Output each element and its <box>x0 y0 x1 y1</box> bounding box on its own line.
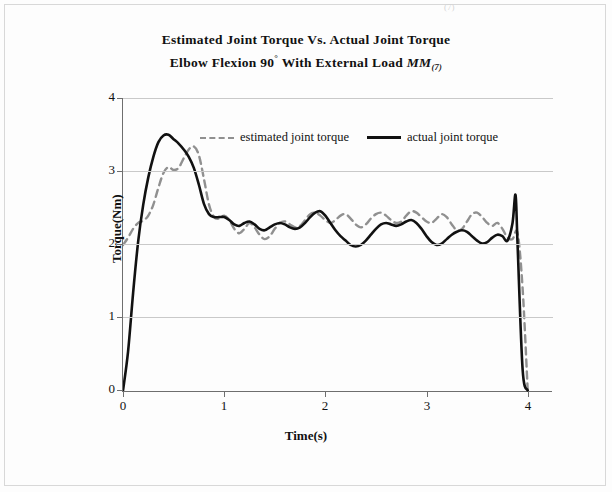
series-line-estimated-joint-torque <box>123 146 528 390</box>
scanned-page: (7) Estimated Joint Torque Vs. Actual Jo… <box>0 0 612 492</box>
y-tick-label-4: 4 <box>87 89 115 105</box>
legend-swatch-dashed-icon <box>200 137 234 139</box>
y-tickmark-3 <box>117 171 123 172</box>
y-tick-label-2: 2 <box>87 235 115 251</box>
x-tick-label-2: 2 <box>310 398 340 414</box>
y-tickmark-2 <box>117 244 123 245</box>
chart-legend: estimated joint torque actual joint torq… <box>200 130 508 145</box>
x-tickmark-2 <box>325 391 326 397</box>
y-tickmark-1 <box>117 317 123 318</box>
legend-swatch-solid-icon <box>367 136 401 139</box>
chart-area: Torque(Nm) 4 3 2 1 0 0 <box>0 0 612 492</box>
gridline-y4 <box>123 98 553 99</box>
x-tickmark-1 <box>224 391 225 397</box>
x-tick-label-0: 0 <box>108 398 138 414</box>
x-axis-label: Time(s) <box>0 428 612 444</box>
x-tickmark-4 <box>528 391 529 397</box>
legend-label-actual: actual joint torque <box>407 130 498 145</box>
x-tick-label-3: 3 <box>412 398 442 414</box>
gridline-y3 <box>123 171 553 172</box>
legend-entry-actual: actual joint torque <box>367 130 498 145</box>
x-tick-label-1: 1 <box>209 398 239 414</box>
gridline-y1 <box>123 317 553 318</box>
gridline-y2 <box>123 244 553 245</box>
y-tick-label-0: 0 <box>87 381 115 397</box>
x-tick-label-4: 4 <box>513 398 543 414</box>
y-tick-label-3: 3 <box>87 162 115 178</box>
y-tick-label-1: 1 <box>87 308 115 324</box>
legend-label-estimated: estimated joint torque <box>240 130 349 145</box>
series-line-actual-joint-torque <box>123 134 528 390</box>
x-tickmark-0 <box>123 391 124 397</box>
y-axis-label: Torque(Nm) <box>109 194 125 263</box>
y-tickmark-4 <box>117 98 123 99</box>
legend-entry-estimated: estimated joint torque <box>200 130 349 145</box>
x-tickmark-3 <box>427 391 428 397</box>
